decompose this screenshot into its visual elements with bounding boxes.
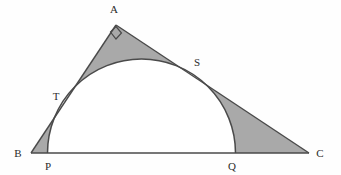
point-label-C: C — [316, 147, 323, 159]
point-label-S: S — [194, 56, 200, 68]
point-label-A: A — [110, 3, 118, 15]
geometry-canvas: A B C P Q T S — [0, 0, 341, 175]
point-label-T: T — [53, 90, 60, 102]
geometry-figure: A B C P Q T S — [0, 0, 341, 175]
semicircle-interior — [48, 59, 236, 153]
point-label-P: P — [45, 160, 51, 172]
point-label-B: B — [14, 147, 21, 159]
point-label-Q: Q — [228, 160, 236, 172]
